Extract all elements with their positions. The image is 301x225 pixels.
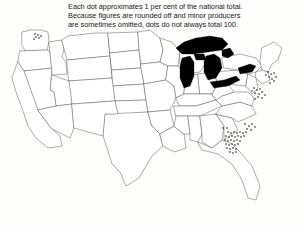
figure-container: Each dot approximates 1 per cent of the … [0, 0, 301, 225]
dot-cluster-virginia [244, 123, 256, 131]
us-map [0, 0, 301, 225]
state-outlines [12, 30, 282, 200]
